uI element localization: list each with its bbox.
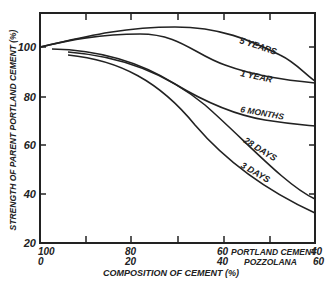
curve-1-year [40,34,315,83]
x-axis-title: COMPOSITION OF CEMENT (%) [103,268,239,278]
x-tick-labels-portland: 100 80 60 40 PORTLAND CEMENT [38,246,323,257]
portland-row-label: PORTLAND CEMENT [231,247,317,257]
svg-text:60: 60 [24,139,37,151]
svg-text:60: 60 [313,256,325,267]
svg-text:28 DAYS: 28 DAYS [241,135,278,164]
y-axis-title: STRENGTH OF PARENT PORTLAND CEMENT (%) [8,29,18,230]
y-ticks [40,47,315,194]
svg-text:1 YEAR: 1 YEAR [240,68,274,85]
svg-text:20: 20 [23,237,37,249]
curve-labels: 5 YEARS 1 YEAR 6 MONTHS 28 DAYS 3 DAYS [238,35,285,184]
x-tick-labels-pozzolana: 0 20 40 60 POZZOLANA [38,256,325,267]
y-tick-labels: 100 80 60 40 20 [18,41,37,249]
svg-text:3 DAYS: 3 DAYS [239,160,272,185]
curve-28-days [68,52,315,199]
svg-text:80: 80 [24,91,37,103]
svg-text:20: 20 [124,256,137,267]
svg-text:100: 100 [18,41,37,53]
chart: 100 80 60 40 20 100 80 60 40 PORTLAND CE… [0,0,334,287]
pozzolana-row-label: POZZOLANA [244,257,297,267]
svg-text:5 YEARS: 5 YEARS [238,35,278,56]
svg-text:0: 0 [38,256,44,267]
svg-text:40: 40 [216,256,229,267]
svg-text:40: 40 [23,188,37,200]
x-ticks [86,13,270,243]
